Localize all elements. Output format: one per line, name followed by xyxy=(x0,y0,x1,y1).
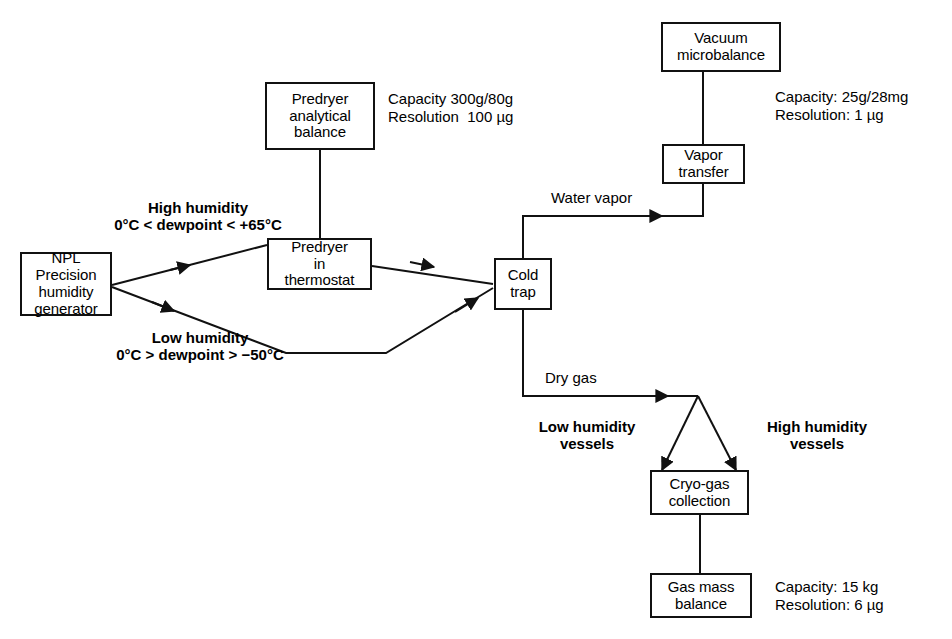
node-npl-label: NPL Precision humidity generator xyxy=(31,250,100,317)
node-predryer-in-thermostat[interactable]: Predryer in thermostat xyxy=(267,238,372,290)
node-cryo-gas-collection-label: Cryo-gas collection xyxy=(666,476,734,510)
node-cold-trap-label: Cold trap xyxy=(505,267,541,301)
label-low-humidity-title: Low humidity xyxy=(110,330,290,347)
edge-low-humidity-vessels xyxy=(662,396,698,470)
spec-gas-mass-balance: Capacity: 15 kg Resolution: 6 µg xyxy=(775,578,884,614)
edge-predryer-to-coldtrap xyxy=(372,266,493,284)
node-predryer-analytical-balance[interactable]: Predryer analytical balance xyxy=(265,82,375,150)
node-gas-mass-balance[interactable]: Gas mass balance xyxy=(650,573,752,618)
diagram-canvas: NPL Precision humidity generator Predrye… xyxy=(0,0,952,639)
node-predryer-thermostat-label: Predryer in thermostat xyxy=(282,239,358,289)
label-high-humidity-vessels: High humidity vessels xyxy=(742,419,892,453)
label-water-vapor: Water vapor xyxy=(551,190,632,207)
label-low-humidity-vessels: Low humidity vessels xyxy=(512,419,662,453)
node-cryo-gas-collection[interactable]: Cryo-gas collection xyxy=(650,470,749,515)
spec-vacuum-microbalance: Capacity: 25g/28mg Resolution: 1 µg xyxy=(775,88,908,124)
label-high-humidity-title: High humidity xyxy=(108,200,288,217)
node-gas-mass-balance-label: Gas mass balance xyxy=(665,579,738,613)
node-vapor-transfer[interactable]: Vapor transfer xyxy=(662,144,745,184)
node-vacuum-microbalance[interactable]: Vacuum microbalance xyxy=(661,22,781,72)
arrow-npl-low-humidity xyxy=(152,302,174,311)
node-predryer-balance-label: Predryer analytical balance xyxy=(286,91,354,141)
arrow-low-humidity-into-coldtrap xyxy=(455,298,478,312)
label-dry-gas: Dry gas xyxy=(545,370,597,387)
label-high-humidity-range: 0°C < dewpoint < +65°C xyxy=(48,217,348,234)
node-vacuum-microbalance-label: Vacuum microbalance xyxy=(674,30,768,64)
node-npl-precision-humidity-generator[interactable]: NPL Precision humidity generator xyxy=(20,252,112,316)
edge-high-humidity-vessels xyxy=(698,396,736,470)
label-low-humidity-range: 0°C > dewpoint > −50°C xyxy=(50,347,350,364)
node-vapor-transfer-label: Vapor transfer xyxy=(675,147,731,181)
spec-predryer-analytical-balance: Capacity 300g/80g Resolution 100 µg xyxy=(388,90,513,126)
arrow-npl-to-predryer-high xyxy=(170,265,190,270)
arrow-predryer-to-coldtrap xyxy=(410,262,434,267)
node-cold-trap[interactable]: Cold trap xyxy=(494,258,552,310)
